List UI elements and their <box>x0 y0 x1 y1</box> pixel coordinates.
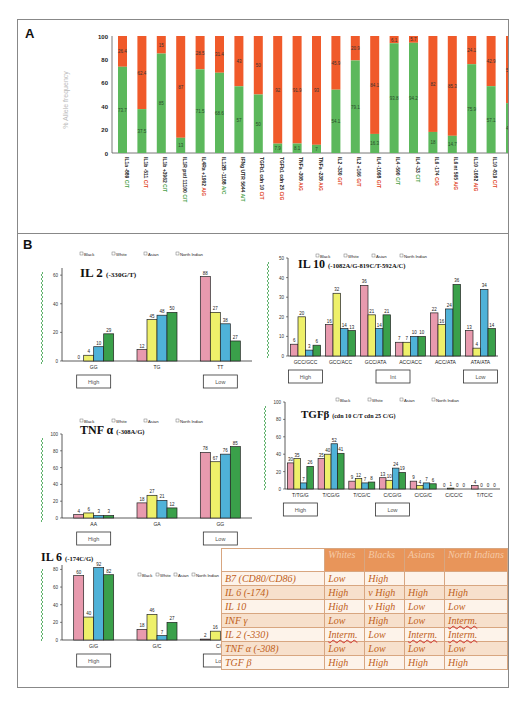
svg-text:78: 78 <box>203 446 209 451</box>
svg-text:21: 21 <box>159 494 165 499</box>
svg-text:30: 30 <box>288 457 294 462</box>
svg-text:85: 85 <box>233 441 239 446</box>
row-label: TGF β <box>222 656 325 670</box>
header-asians: Asians <box>405 549 445 572</box>
table-cell: v High <box>365 600 405 614</box>
bar <box>333 293 341 356</box>
svg-text:White: White <box>348 254 359 259</box>
bar <box>210 312 220 361</box>
x-tick: GCC/ATA <box>365 359 387 365</box>
svg-text:White: White <box>116 419 127 424</box>
bar <box>418 336 426 356</box>
svg-text:31.4: 31.4 <box>215 52 224 57</box>
y-tick: 40 <box>101 104 108 110</box>
svg-text:6.1: 6.1 <box>391 38 398 43</box>
x-tick: IL1R pstI 11100 C/T <box>182 157 188 202</box>
svg-text:57.1: 57.1 <box>487 118 496 123</box>
bar <box>104 575 114 640</box>
svg-text:82: 82 <box>430 82 436 87</box>
y-axis-label-squiggle <box>41 569 43 641</box>
svg-text:93: 93 <box>314 88 320 93</box>
table-cell: High <box>325 586 365 600</box>
bar <box>325 454 332 489</box>
svg-text:0: 0 <box>443 483 446 488</box>
y-axis-label-squiggle <box>267 262 269 358</box>
svg-text:10: 10 <box>412 330 418 335</box>
bar <box>355 479 362 489</box>
x-tick: G/G <box>89 643 98 649</box>
panel-b-label: B <box>23 237 32 252</box>
svg-text:6: 6 <box>293 338 296 343</box>
table-row: TGF βHighHighHighHigh <box>222 656 508 670</box>
svg-text:High: High <box>88 379 99 385</box>
bar <box>200 277 210 361</box>
svg-text:Int: Int <box>390 374 397 380</box>
table-row: TNF α (-308)LowLowLowLow <box>222 642 508 656</box>
svg-text:100: 100 <box>273 400 281 405</box>
bar <box>167 508 177 518</box>
svg-text:14: 14 <box>489 323 495 328</box>
x-tick: GCC/ACC <box>329 359 352 365</box>
cytokine-summary-table: Whites Blacks Asians North Indians B7 (C… <box>221 548 508 670</box>
svg-text:7: 7 <box>161 630 164 635</box>
svg-text:40: 40 <box>325 448 331 453</box>
svg-text:Low: Low <box>215 536 225 542</box>
x-tick: IL10 -819 C/T <box>492 157 498 188</box>
svg-text:80: 80 <box>53 449 59 454</box>
bar <box>84 355 94 361</box>
legend: BlackWhiteAsianNorth Indian <box>316 254 427 259</box>
table-cell: Low <box>445 600 508 614</box>
svg-text:20: 20 <box>53 330 59 335</box>
svg-text:71.5: 71.5 <box>196 109 205 114</box>
svg-text:16: 16 <box>213 625 219 630</box>
x-tick: T/CG/G <box>322 492 339 498</box>
svg-text:94.2: 94.2 <box>409 96 418 101</box>
svg-text:80: 80 <box>53 567 59 572</box>
stacked-bar: 927.9 <box>273 36 282 153</box>
svg-text:North Indian: North Indian <box>436 398 459 403</box>
bar <box>167 312 177 361</box>
svg-text:52: 52 <box>332 438 338 443</box>
svg-text:10: 10 <box>387 474 393 479</box>
svg-text:Asian: Asian <box>376 254 387 259</box>
bar <box>399 472 406 489</box>
bar <box>326 325 334 356</box>
svg-text:84.1: 84.1 <box>370 83 379 88</box>
svg-text:24: 24 <box>393 462 399 467</box>
bar <box>383 315 391 356</box>
table-row: INF γLowHighLowInterm. <box>222 614 508 628</box>
bar <box>349 481 356 489</box>
x-tick: ATA/ATA <box>471 359 491 365</box>
x-tick: IL4Ra +1902 A/G <box>201 157 207 196</box>
svg-text:30: 30 <box>279 295 285 300</box>
svg-text:2: 2 <box>204 633 207 638</box>
bar <box>137 503 147 518</box>
row-label: IL 6 (-174) <box>222 586 325 600</box>
stacked-bar: 42.957.1 <box>487 36 496 153</box>
svg-text:91.9: 91.9 <box>293 88 302 93</box>
svg-text:Low: Low <box>215 379 225 385</box>
x-tick: IL1a -889 C/T <box>124 157 130 188</box>
svg-text:14.7: 14.7 <box>448 142 457 147</box>
bar <box>466 331 474 356</box>
bar <box>411 336 419 356</box>
svg-text:5.7: 5.7 <box>410 37 417 42</box>
svg-text:32: 32 <box>334 287 340 292</box>
bar <box>210 462 220 518</box>
bar <box>481 289 489 356</box>
svg-text:4: 4 <box>475 342 478 347</box>
x-tick: T/TG/G <box>292 492 309 498</box>
x-tick: TG <box>154 364 161 370</box>
row-label: INF γ <box>222 614 325 628</box>
svg-text:Low: Low <box>387 507 397 513</box>
x-tick: IL4 -33 C/T <box>415 157 421 182</box>
bar <box>157 315 167 361</box>
svg-text:79.1: 79.1 <box>351 105 360 110</box>
table-cell: High <box>325 656 365 670</box>
svg-text:16.3: 16.3 <box>370 141 379 146</box>
svg-text:20: 20 <box>276 470 282 475</box>
svg-text:60: 60 <box>53 466 59 471</box>
svg-text:0: 0 <box>77 355 80 360</box>
bar <box>417 486 424 489</box>
bar <box>318 459 325 489</box>
